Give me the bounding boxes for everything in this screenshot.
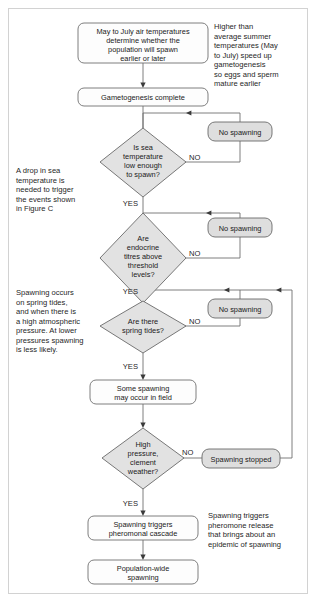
node-pressure-line-3: clement	[130, 458, 156, 467]
node-some-spawning-line-2: may occur in field	[114, 393, 172, 402]
flowchart-canvas: May to July air temperatures determine w…	[0, 0, 318, 605]
edge-nospawning2-return	[143, 213, 240, 218]
node-pheromonal-cascade: Spawning triggers pheromonal cascade	[88, 516, 198, 540]
node-no-spawning-3: No spawning	[208, 299, 272, 318]
arrowhead-return-4	[276, 287, 281, 292]
node-pressure-decision: High pressure, clement weather?	[102, 428, 184, 489]
node-endocrine-line-2: endocrine	[127, 243, 159, 252]
edge-label-yes-1: YES	[123, 199, 138, 208]
node-some-spawning-line-1: Some spawning	[117, 384, 170, 393]
node-endocrine-line-1: Are	[137, 234, 149, 243]
node-no-spawning-2-label: No spawning	[219, 224, 262, 233]
node-air-temperature-line-2: determine whether the	[106, 36, 180, 45]
node-spring-tides-decision: Are there spring tides?	[100, 301, 186, 353]
node-no-spawning-3-label: No spawning	[219, 305, 262, 314]
node-population-spawning-line-2: spawning	[127, 573, 158, 582]
node-population-spawning-line-1: Population-wide	[117, 564, 170, 573]
node-spawning-stopped-label: Spawning stopped	[211, 455, 272, 464]
node-endocrine-line-5: levels?	[131, 270, 154, 279]
arrowhead-gametogenesis	[140, 83, 145, 88]
arrowhead-somespawning	[140, 375, 145, 380]
node-endocrine-line-3: titres above	[124, 252, 162, 261]
node-pheromonal-cascade-line-2: pheromonal cascade	[109, 529, 178, 538]
node-pressure-line-1: High	[135, 440, 150, 449]
note-top-right-line-1: Higher than	[214, 22, 253, 31]
note-bottom-right-line-4: epidemic of spawning	[208, 540, 281, 549]
note-bottom-right-line-2: pheromone release	[208, 521, 273, 530]
note-left-lower-line-1: Spawning occurs	[16, 288, 74, 297]
edge-label-yes-3: YES	[123, 362, 138, 371]
edge-label-no-4: NO	[182, 448, 193, 457]
note-top-right-line-6: so eggs and sperm	[214, 70, 279, 79]
node-gametogenesis-label: Gametogenesis complete	[101, 93, 185, 102]
node-air-temperature: May to July air temperatures determine w…	[78, 23, 208, 63]
note-bottom-right-line-3: that brings about an	[208, 530, 275, 539]
node-gametogenesis: Gametogenesis complete	[78, 88, 208, 106]
note-left-upper-line-5: in Figure C	[16, 204, 54, 213]
node-spawning-stopped: Spawning stopped	[202, 449, 280, 468]
edge-label-no-3: NO	[189, 317, 200, 326]
node-spring-tides-line-2: spring tides?	[122, 326, 164, 335]
node-sea-temp-line-2: temperature	[123, 152, 163, 161]
note-top-right-line-5: gametogenesis	[214, 60, 266, 69]
note-left-lower-line-7: is less likely.	[16, 345, 58, 354]
arrowhead-return-1	[186, 110, 191, 115]
note-left-lower-line-5: pressure. At lower	[16, 326, 77, 335]
edge-seatemp-no	[178, 141, 240, 162]
node-pressure-line-2: pressure,	[128, 449, 159, 458]
note-top-right-line-7: mature earlier	[214, 79, 261, 88]
note-top-right-line-3: temperatures (May	[214, 41, 278, 50]
note-left-upper-line-1: A drop in sea	[16, 166, 61, 175]
node-sea-temp-line-4: to spawn?	[126, 170, 160, 179]
node-endocrine-decision: Are endocrine titres above threshold lev…	[100, 213, 186, 303]
node-pheromonal-cascade-line-1: Spawning triggers	[113, 520, 172, 529]
node-air-temperature-line-3: population will spawn	[108, 45, 178, 54]
note-left-lower-line-2: on spring tides,	[16, 298, 68, 307]
edge-label-no-1: NO	[189, 153, 200, 162]
arrowhead-return-3	[224, 287, 229, 292]
flowchart-figure: May to July air temperatures determine w…	[0, 0, 318, 605]
edge-endocrine-no	[178, 237, 240, 258]
node-sea-temp-line-3: low enough	[124, 161, 162, 170]
arrowhead-pressure	[140, 423, 145, 428]
note-bottom-right: Spawning triggers pheromone release that…	[208, 511, 281, 549]
node-no-spawning-2: No spawning	[208, 218, 272, 237]
node-spring-tides-line-1: Are there	[128, 317, 158, 326]
arrowhead-return-2	[206, 210, 211, 215]
arrowhead-population	[140, 555, 145, 560]
note-left-upper-line-3: needed to trigger	[16, 185, 74, 194]
node-sea-temp-line-1: Is sea	[133, 143, 154, 152]
edge-nospawning1-return	[143, 113, 240, 122]
note-top-right-line-4: to July) speed up	[214, 51, 272, 60]
node-endocrine-line-4: threshold	[128, 261, 158, 270]
edge-label-no-2: NO	[189, 249, 200, 258]
note-left-upper: A drop in sea temperature is needed to t…	[16, 166, 75, 213]
node-no-spawning-1-label: No spawning	[219, 128, 262, 137]
note-left-lower: Spawning occurs on spring tides, and whe…	[16, 288, 84, 354]
note-top-right-line-2: average summer	[214, 32, 271, 41]
edge-label-yes-4: YES	[123, 499, 138, 508]
node-sea-temp-decision: Is sea temperature low enough to spawn?	[100, 128, 186, 197]
node-air-temperature-line-4: earlier or later	[120, 54, 166, 63]
note-left-lower-line-3: and when there is	[16, 307, 76, 316]
node-air-temperature-line-1: May to July air temperatures	[96, 27, 190, 36]
node-no-spawning-1: No spawning	[208, 122, 272, 141]
note-bottom-right-line-1: Spawning triggers	[208, 511, 269, 520]
arrowhead-cascade	[140, 511, 145, 516]
note-left-upper-line-2: temperature is	[16, 176, 65, 185]
note-left-lower-line-4: a high atmospheric	[16, 317, 80, 326]
note-left-upper-line-4: the events shown	[16, 195, 75, 204]
node-some-spawning: Some spawning may occur in field	[90, 380, 196, 404]
node-population-spawning: Population-wide spawning	[88, 560, 198, 584]
edge-label-yes-2: YES	[123, 287, 138, 296]
note-top-right: Higher than average summer temperatures …	[214, 22, 279, 88]
note-left-lower-line-6: pressures spawning	[16, 336, 84, 345]
node-pressure-line-4: weather?	[127, 467, 158, 476]
